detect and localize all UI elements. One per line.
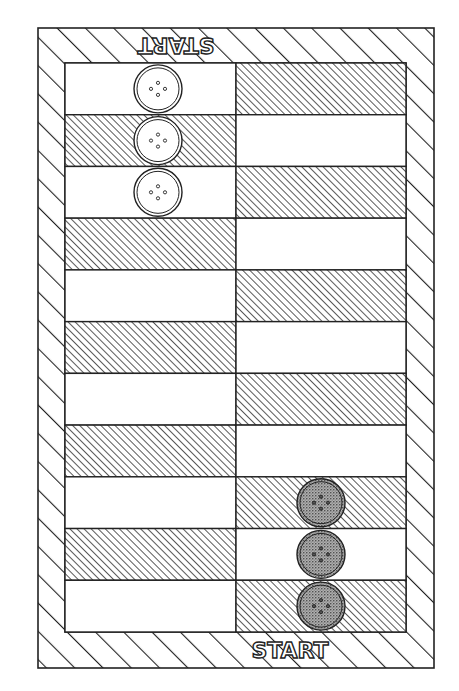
- button-hole-icon: [163, 191, 166, 194]
- game-board: START START: [0, 0, 459, 691]
- dark-button-piece[interactable]: [297, 479, 345, 527]
- button-hole-icon: [326, 553, 329, 556]
- button-hole-icon: [319, 559, 322, 562]
- board-cell-right-3[interactable]: [236, 166, 406, 218]
- light-button-piece[interactable]: [134, 117, 182, 165]
- button-hole-icon: [156, 197, 159, 200]
- button-hole-icon: [156, 81, 159, 84]
- board-cell-left-9[interactable]: [65, 477, 236, 529]
- dark-button-piece[interactable]: [297, 530, 345, 578]
- board-cell-left-11[interactable]: [65, 580, 236, 632]
- board-cell-left-4[interactable]: [65, 218, 236, 270]
- button-hole-icon: [319, 547, 322, 550]
- board-cell-right-5[interactable]: [236, 270, 406, 322]
- button-hole-icon: [326, 605, 329, 608]
- button-hole-icon: [319, 507, 322, 510]
- start-zone-top: START: [130, 30, 222, 58]
- board-cell-right-1[interactable]: [236, 63, 406, 115]
- button-hole-icon: [156, 145, 159, 148]
- start-label-top: START: [137, 33, 214, 58]
- board-cell-left-10[interactable]: [65, 529, 236, 581]
- button-hole-icon: [156, 133, 159, 136]
- button-hole-icon: [156, 185, 159, 188]
- button-hole-icon: [319, 495, 322, 498]
- start-label-bottom: START: [251, 638, 328, 663]
- board-cell-left-8[interactable]: [65, 425, 236, 477]
- button-hole-icon: [149, 139, 152, 142]
- button-hole-icon: [149, 87, 152, 90]
- start-zone-bottom: START: [251, 638, 328, 663]
- light-button-piece[interactable]: [134, 168, 182, 216]
- board-cell-right-4[interactable]: [236, 218, 406, 270]
- board-cell-left-6[interactable]: [65, 322, 236, 374]
- button-hole-icon: [319, 599, 322, 602]
- board-cell-right-6[interactable]: [236, 322, 406, 374]
- board-grid: [65, 63, 406, 632]
- board-cell-left-5[interactable]: [65, 270, 236, 322]
- button-hole-icon: [319, 611, 322, 614]
- light-button-piece[interactable]: [134, 65, 182, 113]
- button-hole-icon: [163, 87, 166, 90]
- button-hole-icon: [156, 93, 159, 96]
- button-hole-icon: [312, 605, 315, 608]
- button-hole-icon: [149, 191, 152, 194]
- button-hole-icon: [326, 501, 329, 504]
- button-hole-icon: [163, 139, 166, 142]
- button-hole-icon: [312, 553, 315, 556]
- dark-button-piece[interactable]: [297, 582, 345, 630]
- board-cell-right-8[interactable]: [236, 425, 406, 477]
- board-cell-right-7[interactable]: [236, 373, 406, 425]
- board-cell-right-2[interactable]: [236, 115, 406, 167]
- board-cell-left-7[interactable]: [65, 373, 236, 425]
- button-hole-icon: [312, 501, 315, 504]
